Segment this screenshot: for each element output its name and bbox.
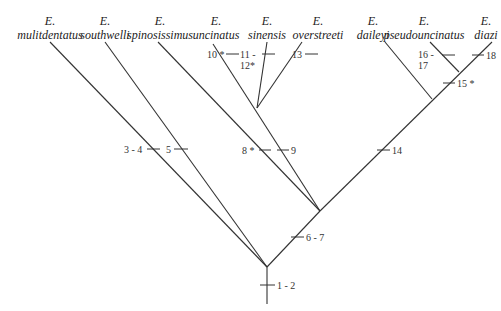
branch-spinosissimus bbox=[158, 42, 320, 211]
character-label: 8 * bbox=[242, 145, 255, 156]
character-label: 16 - 17 bbox=[418, 49, 440, 71]
character-label: 6 - 7 bbox=[306, 232, 324, 243]
character-label: 11 - 12* bbox=[240, 49, 260, 71]
character-label: 18 bbox=[486, 50, 496, 61]
character-label: 14 bbox=[392, 145, 402, 156]
branch-uncinatus bbox=[213, 44, 320, 211]
character-label: 5 bbox=[166, 144, 171, 155]
character-label: 1 - 2 bbox=[277, 280, 295, 291]
character-label: 10 * bbox=[207, 49, 225, 60]
branch-mulitdentatus bbox=[50, 42, 267, 267]
character-label: 15 * bbox=[457, 78, 475, 89]
character-label: 13 bbox=[292, 49, 302, 60]
character-label: 3 - 4 bbox=[124, 144, 142, 155]
character-label: 9 bbox=[291, 145, 296, 156]
